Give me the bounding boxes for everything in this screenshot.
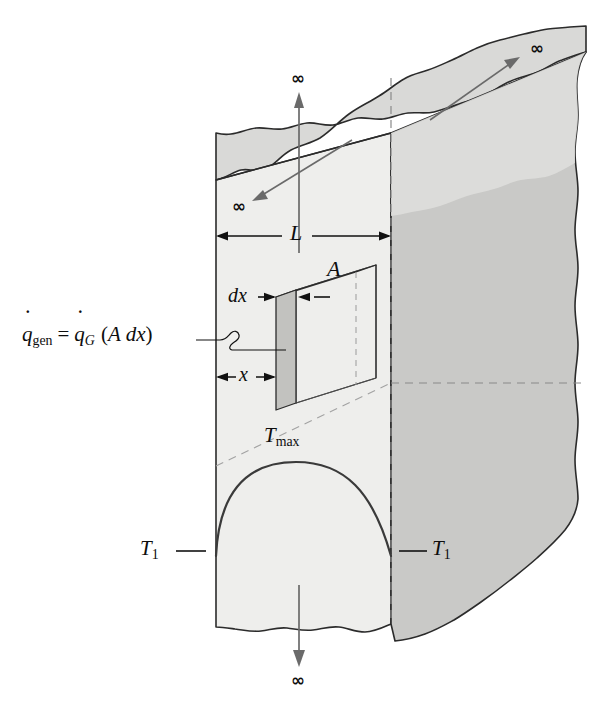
q-volumetric-symbol: q — [74, 322, 85, 346]
figure-canvas: ∞ ∞ ∞ ∞ L A dx x Tmax T1 T1 qgen=qG(Adx) — [0, 0, 602, 713]
paren-close: ) — [146, 322, 153, 346]
equation-area-symbol: A — [108, 322, 121, 346]
t1-right-symbol: T — [432, 536, 444, 560]
t1-right-label: T1 — [432, 538, 451, 562]
equation-equals: = — [53, 322, 75, 346]
infinity-label-left: ∞ — [232, 198, 246, 215]
t1-right-subscript: 1 — [444, 547, 451, 562]
t1-left-subscript: 1 — [152, 547, 159, 562]
q-volumetric-subscript: G — [85, 333, 95, 348]
equation-dx-symbol: dx — [121, 322, 146, 346]
thickness-label: dx — [228, 285, 247, 305]
infinity-label-bottom: ∞ — [291, 672, 305, 689]
t1-left-label: T1 — [140, 538, 159, 562]
area-label: A — [327, 258, 340, 280]
t-max-label: Tmax — [264, 425, 300, 449]
q-gen-symbol: q — [22, 322, 33, 346]
generation-equation: qgen=qG(Adx) — [22, 324, 153, 348]
t-max-symbol: T — [264, 423, 276, 447]
length-label: L — [290, 222, 302, 244]
infinity-label-top: ∞ — [291, 70, 305, 87]
t-max-subscript: max — [276, 434, 300, 449]
paren-open: ( — [95, 322, 108, 346]
t1-left-symbol: T — [140, 536, 152, 560]
wall-diagram-svg — [0, 0, 602, 713]
position-label: x — [239, 364, 248, 384]
infinity-label-upper-right: ∞ — [530, 40, 544, 57]
q-gen-subscript: gen — [33, 333, 53, 348]
